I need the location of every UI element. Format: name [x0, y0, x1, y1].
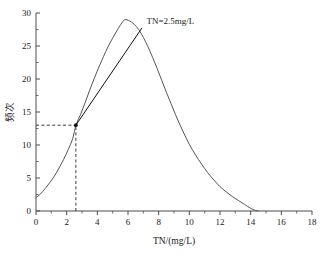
- x-tick-label: 2: [64, 217, 69, 227]
- chart-annotations: TN=2.5mg/L: [146, 16, 194, 26]
- y-tick-label: 20: [22, 74, 32, 84]
- chart-figure: 024681012141618 051015202530 TN=2.5mg/L …: [0, 0, 328, 259]
- guide-lines: [36, 125, 76, 211]
- data-point-markers: [74, 123, 78, 127]
- inflection-point: [74, 123, 78, 127]
- y-tick-label: 0: [27, 206, 32, 216]
- x-axis-tick-labels: 024681012141618: [34, 217, 317, 227]
- x-tick-label: 8: [156, 217, 161, 227]
- x-tick-label: 6: [126, 217, 131, 227]
- tn-threshold-label: TN=2.5mg/L: [146, 16, 194, 26]
- y-tick-label: 10: [22, 140, 32, 150]
- y-tick-label: 25: [22, 41, 32, 51]
- x-axis-ticks: [36, 211, 312, 215]
- y-axis-ticks: [36, 13, 40, 211]
- x-tick-label: 4: [95, 217, 100, 227]
- x-tick-label: 0: [34, 217, 39, 227]
- x-axis-title: TN/(mg/L): [153, 236, 195, 247]
- x-tick-label: 14: [246, 217, 256, 227]
- chart-canvas: 024681012141618 051015202530 TN=2.5mg/L …: [0, 0, 328, 259]
- x-tick-label: 18: [308, 217, 318, 227]
- y-tick-label: 15: [22, 107, 32, 117]
- y-tick-label: 5: [27, 173, 32, 183]
- x-tick-label: 12: [216, 217, 225, 227]
- tangent-line: [76, 28, 142, 125]
- y-axis-title: 频次: [4, 102, 15, 122]
- x-tick-label: 10: [185, 217, 195, 227]
- frequency-curve: [36, 20, 258, 211]
- y-axis-tick-labels: 051015202530: [22, 8, 32, 216]
- x-tick-label: 16: [277, 217, 287, 227]
- y-tick-label: 30: [22, 8, 32, 18]
